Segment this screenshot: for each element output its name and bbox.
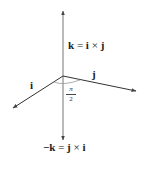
equals-sign: = — [55, 141, 67, 153]
k-equation-label: k = i × j — [68, 40, 104, 51]
equals-sign: = — [74, 39, 86, 51]
times-sign: × — [89, 39, 101, 51]
times-sign: × — [71, 141, 83, 153]
i-vector-arrow — [13, 76, 63, 108]
angle-denominator: 2 — [66, 96, 76, 103]
angle-numerator: π — [66, 86, 76, 93]
j-label: j — [92, 69, 96, 80]
angle-pi-over-2: π 2 — [66, 86, 76, 103]
i-symbol: i — [83, 141, 86, 153]
neg-k-symbol: −k — [43, 141, 55, 153]
i-label: i — [30, 80, 33, 91]
right-angle-arc — [54, 80, 80, 84]
j-symbol: j — [101, 39, 105, 51]
neg-k-equation-label: −k = j × i — [43, 142, 86, 153]
